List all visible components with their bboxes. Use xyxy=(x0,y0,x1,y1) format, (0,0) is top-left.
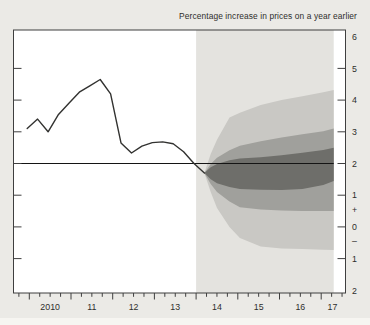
y-axis-label: 2 xyxy=(352,286,357,296)
y-axis-label: + xyxy=(352,205,357,215)
y-axis-label: 0 xyxy=(352,222,357,232)
y-axis-label: – xyxy=(352,236,357,246)
y-axis-label: 3 xyxy=(352,127,357,137)
x-axis-label: 11 xyxy=(87,302,96,312)
x-axis-label: 15 xyxy=(254,302,264,312)
x-axis-label: 2010 xyxy=(40,302,60,312)
y-axis-label: 1 xyxy=(352,254,357,264)
page-edge-strip xyxy=(0,318,370,325)
inflation-fan-chart: 201011121314151617 654321+0–12 xyxy=(0,0,370,325)
y-axis-label: 6 xyxy=(352,32,357,42)
y-axis-label: 5 xyxy=(352,64,357,74)
y-axis-label: 1 xyxy=(352,190,357,200)
x-axis-label: 13 xyxy=(170,302,180,312)
x-axis-layer: 201011121314151617 xyxy=(19,293,342,312)
x-axis-label: 12 xyxy=(129,302,139,312)
x-axis-label: 14 xyxy=(212,302,222,312)
x-axis-label: 16 xyxy=(295,302,305,312)
y-axis-label: 2 xyxy=(352,159,357,169)
x-axis-label: 17 xyxy=(328,302,338,312)
printed-fan-chart-page: Percentage increase in prices on a year … xyxy=(0,0,370,325)
y-axis-label: 4 xyxy=(352,95,357,105)
